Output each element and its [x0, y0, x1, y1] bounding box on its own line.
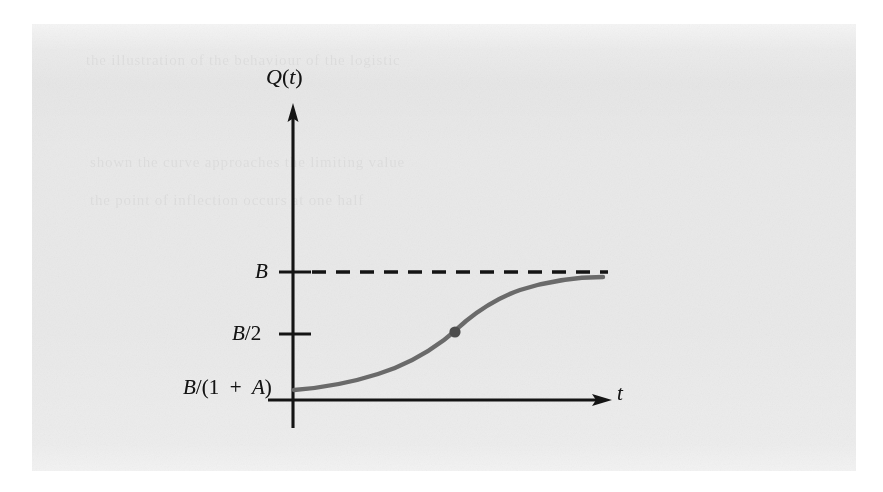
- vertical-axis-label: Q(t): [266, 64, 303, 90]
- figure-root: the illustration of the behaviour of the…: [0, 0, 883, 492]
- inflection-point-marker: [449, 326, 460, 337]
- y-tick-label-B-over-1-plus-A: B/(1 + A): [183, 375, 272, 400]
- horizontal-axis: [268, 394, 612, 406]
- y-tick-label-B-half: B/2: [232, 321, 261, 346]
- horizontal-axis-label: t: [617, 381, 623, 406]
- y-tick-label-B: B: [255, 259, 268, 284]
- vertical-axis: [288, 103, 299, 428]
- logistic-curve: [294, 277, 603, 390]
- plot-canvas: [0, 0, 883, 492]
